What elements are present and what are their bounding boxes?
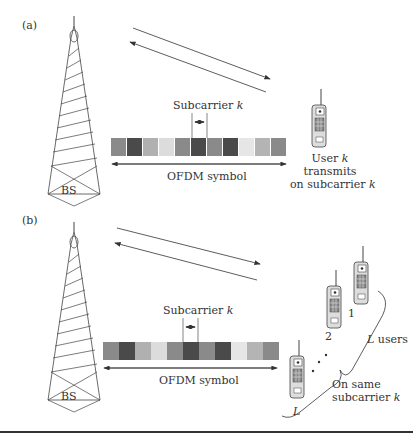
ofdm-symbol-cells-b xyxy=(103,342,279,360)
ofdm-label-a: OFDM symbol xyxy=(167,170,247,183)
mobile-phone-icon-1 xyxy=(354,246,368,304)
mobile-phone-icon xyxy=(312,89,326,147)
ofdm-label-b: OFDM symbol xyxy=(159,374,239,387)
subcarrier-label-a: Subcarrier k xyxy=(173,99,243,112)
mobile-phone-icon-L xyxy=(290,340,304,398)
same-subcarrier-label: On same subcarrier k xyxy=(332,378,400,404)
user-1-label: 1 xyxy=(348,307,355,320)
bs-label-b: BS xyxy=(61,390,77,403)
ofdm-symbol-cells-a xyxy=(111,138,286,156)
bs-label-a: BS xyxy=(61,184,77,197)
mobile-phone-icon-2 xyxy=(327,270,341,328)
base-station-tower-icon xyxy=(48,16,100,206)
panel-b-label: (b) xyxy=(22,214,38,227)
user-2-label: 2 xyxy=(325,330,332,343)
base-station-tower-icon-b xyxy=(48,222,100,412)
user-L-label: L xyxy=(293,405,300,418)
user-k-caption: User k transmits on subcarrier k xyxy=(290,152,370,191)
l-users-label: L users xyxy=(367,333,408,346)
panel-a-label: (a) xyxy=(22,19,37,32)
subcarrier-label-b: Subcarrier k xyxy=(163,304,233,317)
